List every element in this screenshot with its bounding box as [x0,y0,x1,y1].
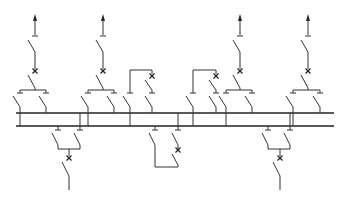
disconnector-switch-icon [262,130,271,149]
arrow-up-icon [33,14,37,35]
busbars [16,113,334,126]
circuit-breaker-x-icon [214,74,219,79]
arrow-up-icon [306,14,310,35]
feeder-top-3 [219,14,255,126]
disconnector-switch-icon [245,93,255,113]
disconnector-switch-icon [39,93,49,113]
disconnector-switch-icon [81,93,91,126]
feeder-top-1 [13,14,49,126]
disconnector-switch-icon [96,36,106,69]
arrow-up-icon [101,14,105,35]
disconnector-switch-icon [313,93,323,113]
disconnector-switch-icon [13,93,23,126]
feeder-bottom-1 [52,113,83,190]
coupler-2 [186,70,219,126]
disconnector-switch-icon [301,36,311,69]
disconnector-switch-icon [284,130,293,149]
coupler-1 [123,70,155,126]
disconnector-switch-icon [28,36,38,69]
circuit-breaker-x-icon [67,156,72,161]
disconnector-switch-icon [286,93,296,126]
feeder-top-4 [286,14,323,126]
feeder-top-2 [81,14,117,126]
circuit-breaker-x-icon [238,69,243,74]
disconnector-switch-icon [52,130,61,149]
feeder-bottom-2 [262,113,293,190]
circuit-breaker-x-icon [33,69,38,74]
disconnector-switch-icon [219,93,229,126]
single-line-diagram [0,0,348,202]
circuit-breaker-x-icon [306,69,311,74]
disconnector-switch-icon [74,130,83,149]
circuit-breaker-x-icon [278,156,283,161]
coupler-3 [149,113,181,167]
disconnector-switch-icon [233,36,243,69]
arrow-up-icon [238,14,242,35]
circuit-breaker-x-icon [150,74,155,79]
disconnector-switch-icon [107,93,117,113]
circuit-breaker-x-icon [101,69,106,74]
